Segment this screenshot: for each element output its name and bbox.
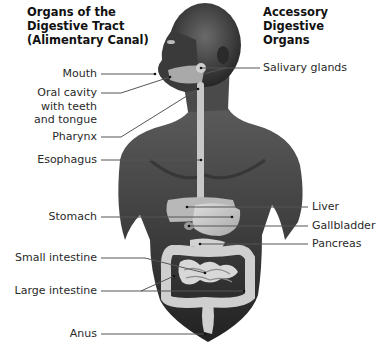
digestive-tract-heading: Organs of the Digestive Tract (Alimentar… <box>27 5 149 47</box>
label-large-intestine: Large intestine <box>15 284 97 298</box>
label-pharynx: Pharynx <box>52 130 97 144</box>
label-esophagus: Esophagus <box>37 153 97 167</box>
label-liver: Liver <box>312 200 339 214</box>
label-stomach: Stomach <box>48 210 97 224</box>
label-small-intestine: Small intestine <box>15 251 97 265</box>
label-anus: Anus <box>70 327 97 341</box>
label-salivary-glands: Salivary glands <box>263 61 347 75</box>
label-mouth: Mouth <box>63 67 97 81</box>
label-oral-cavity: Oral cavity with teeth and tongue <box>34 86 97 127</box>
digestive-system-figure <box>0 0 389 355</box>
label-gallbladder: Gallbladder <box>312 219 375 233</box>
label-pancreas: Pancreas <box>312 237 361 251</box>
accessory-organs-heading: Accessory Digestive Organs <box>263 5 389 47</box>
